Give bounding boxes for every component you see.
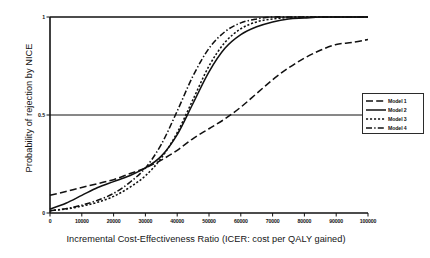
chart-legend: Model 1Model 2Model 3Model 4 [362, 93, 424, 134]
legend-item-label: Model 1 [388, 98, 407, 104]
x-tick-label: 60000 [223, 218, 259, 224]
x-tick-label: 30000 [127, 218, 163, 224]
legend-line-swatch-icon [365, 115, 387, 123]
legend-item-1: Model 1 [365, 96, 421, 105]
legend-item-3: Model 3 [365, 114, 421, 123]
series-line-4 [50, 17, 368, 211]
y-tick-label: 0.5 [23, 112, 45, 118]
legend-line-swatch-icon [365, 97, 387, 105]
chart-figure: Probability of rejection by NICE Increme… [0, 0, 430, 258]
legend-line-swatch-icon [365, 124, 387, 132]
legend-item-label: Model 2 [388, 107, 407, 113]
series-line-1 [50, 40, 368, 196]
series-line-3 [50, 17, 368, 211]
y-axis-title: Probability of rejection by NICE [24, 13, 34, 203]
legend-line-swatch-icon [365, 106, 387, 114]
legend-item-label: Model 4 [388, 125, 407, 131]
legend-item-2: Model 2 [365, 105, 421, 114]
x-tick-label: 0 [32, 218, 68, 224]
y-tick-label: 1 [23, 14, 45, 20]
x-axis-title: Incremental Cost-Effectiveness Ratio (IC… [36, 234, 376, 244]
x-tick-label: 40000 [159, 218, 195, 224]
x-tick-label: 20000 [96, 218, 132, 224]
legend-item-label: Model 3 [388, 116, 407, 122]
x-tick-label: 10000 [64, 218, 100, 224]
x-tick-label: 50000 [191, 218, 227, 224]
legend-item-4: Model 4 [365, 123, 421, 132]
series-line-2 [50, 17, 368, 209]
x-tick-label: 80000 [286, 218, 322, 224]
x-tick-label: 70000 [255, 218, 291, 224]
x-tick-label: 100000 [350, 218, 386, 224]
y-tick-label: 0 [23, 210, 45, 216]
x-tick-label: 90000 [318, 218, 354, 224]
